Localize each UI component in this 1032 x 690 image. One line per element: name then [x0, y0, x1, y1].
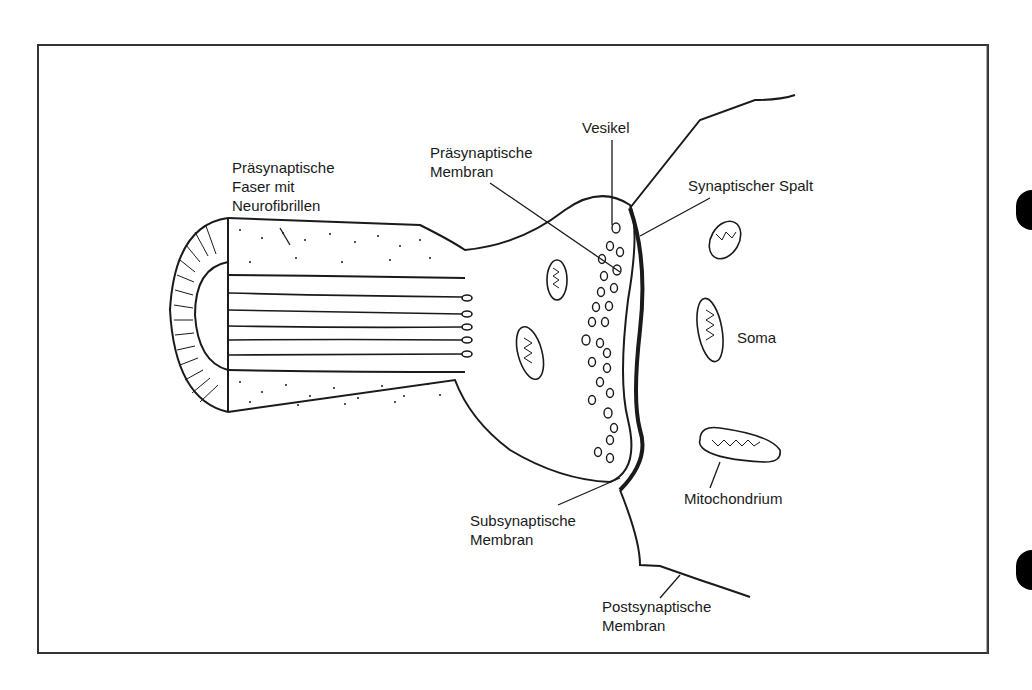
label-soma: Soma [737, 328, 776, 347]
label-line: Mitochondrium [684, 489, 782, 508]
label-line: Vesikel [582, 118, 630, 137]
label-presynaptic-fiber: Präsynaptische Faser mit Neurofibrillen [232, 158, 335, 215]
label-subsynaptic-membrane: Subsynaptische Membran [470, 511, 576, 549]
label-line: Postsynaptische [602, 597, 711, 616]
label-line: Soma [737, 328, 776, 347]
neurofibrils [228, 293, 472, 357]
label-line: Präsynaptische [430, 143, 533, 162]
label-line: Synaptischer Spalt [688, 176, 813, 195]
presynaptic-mitochondria [511, 260, 567, 382]
vesicles [582, 223, 624, 463]
label-synaptic-cleft: Synaptischer Spalt [688, 176, 813, 195]
label-line: Subsynaptische [470, 511, 576, 530]
label-line: Neurofibrillen [232, 196, 335, 215]
label-postsynaptic-membrane: Postsynaptische Membran [602, 597, 711, 635]
label-presynaptic-membrane: Präsynaptische Membran [430, 143, 533, 181]
label-line: Faser mit [232, 177, 335, 196]
label-line: Präsynaptische [232, 158, 335, 177]
label-mitochondrium: Mitochondrium [684, 489, 782, 508]
label-line: Membran [430, 162, 533, 181]
axoplasm-stipple [239, 229, 441, 406]
label-line: Membran [602, 616, 711, 635]
label-line: Membran [470, 530, 576, 549]
label-vesicle: Vesikel [582, 118, 630, 137]
